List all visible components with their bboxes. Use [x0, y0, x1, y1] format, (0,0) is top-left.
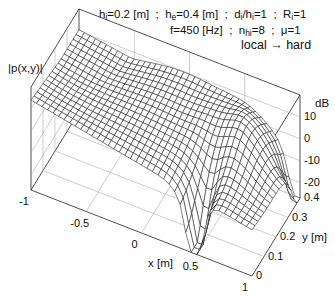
x-tick-label: -1	[19, 196, 29, 207]
condition-label: local → hard	[241, 39, 311, 52]
z-tick-label: -10	[304, 155, 320, 166]
y-tick-label: 0.3	[292, 212, 307, 223]
y-tick-label: 0.4	[304, 192, 319, 203]
z-axis-label: |p(x,y)|	[8, 63, 43, 75]
x-tick-label: 0	[132, 239, 138, 250]
x-tick-label: 0.5	[183, 261, 198, 272]
z-tick-label: 10	[304, 111, 316, 122]
x-tick-label: 1	[242, 282, 248, 293]
x-tick-label: -0.5	[70, 218, 89, 229]
y-tick-label: 0.1	[268, 251, 283, 262]
param-line-1: hi=0.2 [m] ; he=0.4 [m] ; di/hi=1 ; Ri=1	[99, 9, 306, 22]
z-unit-label: dB	[315, 98, 329, 110]
z-tick-label: 0	[304, 133, 310, 144]
y-tick-label: 0	[256, 270, 262, 281]
param-line-2: f=450 [Hz] ; nhi=8 ; μ=1	[170, 25, 301, 38]
y-axis-label: y [m]	[302, 232, 327, 244]
z-tick-label: -20	[304, 177, 320, 188]
y-tick-label: 0.2	[280, 231, 295, 242]
x-axis-label: x [m]	[148, 258, 173, 270]
